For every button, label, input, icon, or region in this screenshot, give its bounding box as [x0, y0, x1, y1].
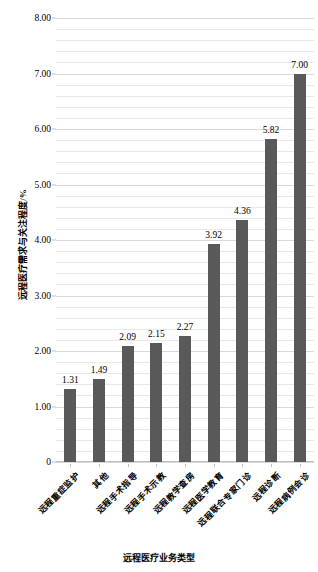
bar-value-label: 2.27 — [177, 322, 194, 332]
x-tick-label: 其他 — [89, 469, 110, 490]
bar[interactable] — [179, 336, 191, 462]
bar[interactable] — [93, 379, 105, 462]
y-axis-title: 远程医疗需求与关注程度/% — [16, 150, 29, 340]
x-tick-label: 远程重症监护 — [35, 469, 82, 516]
x-tick-mark — [128, 464, 129, 467]
x-axis-title: 远程医疗业务类型 — [0, 551, 318, 564]
bar-slot: 7.00 — [285, 18, 314, 462]
x-axis-labels: 远程重症监护其他远程手术指导远程手术示教远程教学查房远程医学教育远程联合专家门诊… — [56, 464, 314, 552]
bar-value-label: 1.31 — [62, 375, 79, 385]
x-tick-mark — [271, 464, 272, 467]
y-tick-label: 5.00 — [34, 180, 51, 190]
x-tick-mark — [300, 464, 301, 467]
gridline-major — [56, 462, 314, 463]
bar-chart: 远程医疗需求与关注程度/% 01.002.003.004.005.006.007… — [0, 0, 318, 572]
bar-value-label: 7.00 — [291, 60, 308, 70]
bar-slot: 2.27 — [171, 18, 200, 462]
bar[interactable] — [64, 389, 76, 462]
y-tick-label: 7.00 — [34, 69, 51, 79]
bar-value-label: 5.82 — [263, 125, 280, 135]
plot-area: 01.002.003.004.005.006.007.008.00 1.311.… — [56, 18, 314, 462]
bar-slot: 1.31 — [56, 18, 85, 462]
bar-value-label: 4.36 — [234, 206, 251, 216]
y-tick-label: 2.00 — [34, 346, 51, 356]
bar-slot: 4.36 — [228, 18, 257, 462]
bar-slot: 2.15 — [142, 18, 171, 462]
x-tick-mark — [99, 464, 100, 467]
bar[interactable] — [150, 343, 162, 462]
y-tick-label: 1.00 — [34, 402, 51, 412]
bar-slot: 1.49 — [85, 18, 114, 462]
y-tick-label: 6.00 — [34, 124, 51, 134]
bar-value-label: 2.15 — [148, 329, 165, 339]
x-tick-mark — [214, 464, 215, 467]
y-tick-label: 8.00 — [34, 13, 51, 23]
bar-slot: 2.09 — [113, 18, 142, 462]
bar-value-label: 2.09 — [119, 332, 136, 342]
bar[interactable] — [294, 74, 306, 463]
x-tick-mark — [185, 464, 186, 467]
x-tick-mark — [242, 464, 243, 467]
bar[interactable] — [236, 220, 248, 462]
bar-slot: 5.82 — [257, 18, 286, 462]
y-tick-label: 4.00 — [34, 235, 51, 245]
x-tick-mark — [70, 464, 71, 467]
bar-value-label: 1.49 — [91, 365, 108, 375]
bar[interactable] — [208, 244, 220, 462]
x-tick-mark — [156, 464, 157, 467]
bar[interactable] — [122, 346, 134, 462]
y-tick-label: 0 — [46, 457, 51, 467]
bar-slot: 3.92 — [199, 18, 228, 462]
bars-layer: 1.311.492.092.152.273.924.365.827.00 — [56, 18, 314, 462]
bar[interactable] — [265, 139, 277, 462]
y-tick-label: 3.00 — [34, 291, 51, 301]
bar-value-label: 3.92 — [205, 230, 222, 240]
